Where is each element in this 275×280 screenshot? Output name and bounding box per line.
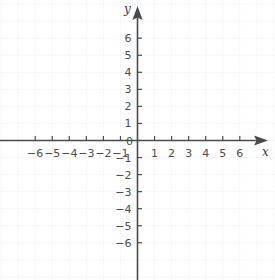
x-tick-label: 2: [168, 148, 175, 159]
y-tick-label: −2: [115, 169, 131, 180]
y-tick-label: −3: [115, 186, 131, 197]
y-axis-label: y: [124, 3, 131, 15]
x-tick-label: 5: [219, 148, 226, 159]
x-tick-label: 4: [202, 148, 209, 159]
x-tick-label: −6: [27, 148, 43, 159]
x-tick-label: −3: [78, 148, 94, 159]
y-tick-label: 5: [125, 50, 132, 61]
y-tick-label: −4: [115, 203, 131, 214]
y-tick-label: 4: [125, 67, 132, 78]
y-tick-label: 6: [125, 33, 132, 44]
y-tick-label: −1: [115, 152, 131, 163]
origin-label: 0: [126, 136, 133, 147]
x-tick-label: 1: [151, 148, 158, 159]
y-tick-label: −6: [115, 237, 131, 248]
x-tick-label: 6: [236, 148, 243, 159]
coordinate-plane: −6−5−4−3−2−1123456 654321−1−2−3−4−5−6 0 …: [0, 0, 275, 280]
axes-layer: [0, 0, 275, 280]
x-tick-label: −2: [95, 148, 111, 159]
x-axis-group: [0, 135, 268, 145]
x-tick-label: 3: [185, 148, 192, 159]
y-axis-group: [132, 6, 142, 280]
x-axis-label: x: [262, 146, 269, 158]
y-tick-label: −5: [115, 220, 131, 231]
x-tick-label: −4: [61, 148, 77, 159]
y-tick-label: 1: [125, 118, 132, 129]
y-tick-label: 3: [125, 84, 132, 95]
y-tick-label: 2: [125, 101, 132, 112]
x-tick-label: −5: [44, 148, 60, 159]
